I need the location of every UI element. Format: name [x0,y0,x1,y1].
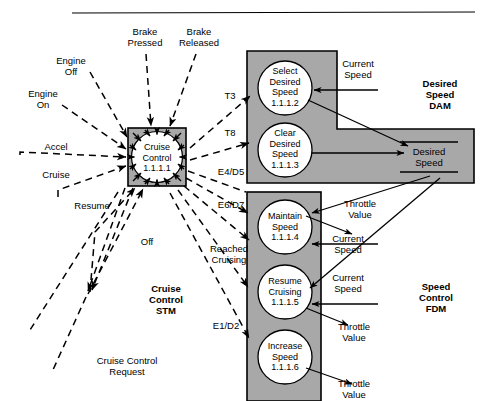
resume-cruising-label: Resume Cruising 1.1.1.5 [257,276,313,308]
flow-cruise [58,166,126,197]
flow-t8 [190,143,249,160]
flow-to-request-b [88,188,125,291]
flow-store-to-resume [310,178,440,288]
select-desired-speed-label: Select Desired Speed 1.1.1.2 [257,66,313,108]
flow-t3 [190,96,250,148]
cruise-control-diagram: Cruise Control 1.1.1.1 Desired Speed DAM… [0,0,490,401]
flow-brake-pressed [146,54,151,126]
diagram-graphics [0,0,490,401]
flow-to-request-a [92,188,133,290]
flow-resume [90,188,135,292]
flow-cruise-control-request [52,297,86,372]
cruise-control-label: Cruise Control 1.1.1.1 [129,142,185,174]
event-dashed-flows [20,54,250,372]
flow-accel [20,152,126,157]
header-rule [72,12,475,13]
flow-engine-on [62,105,126,149]
flow-e1-d2 [170,193,249,338]
increase-speed-label: Increase Speed 1.1.1.6 [257,341,313,373]
maintain-speed-label: Maintain Speed 1.1.1.4 [257,211,313,243]
flow-brake-released [170,54,196,126]
flow-e4-d5 [188,171,246,192]
clear-desired-speed-label: Clear Desired Speed 1.1.1.3 [257,128,313,170]
